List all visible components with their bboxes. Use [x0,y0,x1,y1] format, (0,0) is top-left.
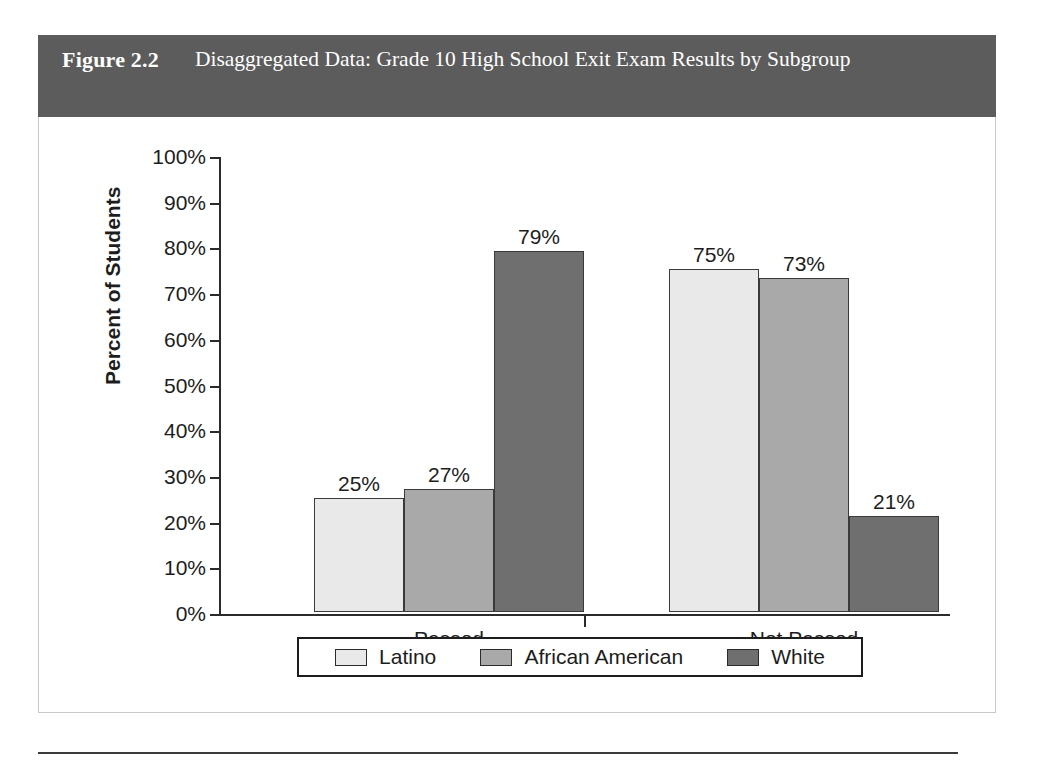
page-rule [38,752,958,754]
y-tick-label: 20% [164,511,206,535]
legend-swatch-icon [335,649,367,666]
y-tick-label: 90% [164,191,206,215]
bar-value-label: 25% [338,472,380,496]
y-tick-mark [210,614,219,616]
y-tick-label: 40% [164,419,206,443]
figure-container: Figure 2.2 Disaggregated Data: Grade 10 … [38,35,996,713]
bar-not-passed-white: 21% [849,516,939,612]
y-tick-label: 0% [176,602,206,626]
y-tick-mark [210,340,219,342]
page-caption [38,760,738,772]
y-tick-label: 30% [164,465,206,489]
chart-legend: LatinoAfrican AmericanWhite [297,637,863,677]
y-tick-mark [210,568,219,570]
y-tick-label: 10% [164,556,206,580]
legend-item-white[interactable]: White [727,645,825,669]
y-tick-label: 100% [152,145,206,169]
legend-swatch-icon [727,649,759,666]
y-axis-title: Percent of Students [101,363,125,385]
bar-value-label: 79% [518,225,560,249]
bar-passed-latino: 25% [314,498,404,612]
y-tick-mark [210,477,219,479]
y-tick-mark [210,523,219,525]
y-tick-mark [210,431,219,433]
legend-label: African American [524,645,683,669]
y-tick-label: 50% [164,374,206,398]
plot-area: 0%10%20%30%40%50%60%70%80%90%100% 25%27%… [219,157,949,614]
legend-label: Latino [379,645,436,669]
y-tick-mark [210,203,219,205]
figure-number: Figure 2.2 [62,46,159,73]
legend-swatch-icon [480,649,512,666]
y-tick-label: 60% [164,328,206,352]
y-tick-mark [210,294,219,296]
y-tick-label: 70% [164,282,206,306]
category-separator-tick [584,616,586,627]
bar-value-label: 27% [428,463,470,487]
y-tick-mark [210,386,219,388]
bar-not-passed-latino: 75% [669,269,759,612]
figure-title: Disaggregated Data: Grade 10 High School… [195,46,972,73]
bar-value-label: 75% [693,243,735,267]
y-axis-line [219,157,221,615]
bar-not-passed-african-american: 73% [759,278,849,612]
legend-item-african-american[interactable]: African American [480,645,683,669]
bar-passed-african-american: 27% [404,489,494,612]
y-tick-mark [210,157,219,159]
bar-value-label: 73% [783,252,825,276]
y-tick-mark [210,248,219,250]
legend-label: White [771,645,825,669]
legend-item-latino[interactable]: Latino [335,645,436,669]
bar-value-label: 21% [873,490,915,514]
y-tick-label: 80% [164,236,206,260]
figure-header-bar: Figure 2.2 Disaggregated Data: Grade 10 … [38,35,996,117]
bar-passed-white: 79% [494,251,584,612]
chart-panel: Percent of Students 0%10%20%30%40%50%60%… [38,117,996,713]
